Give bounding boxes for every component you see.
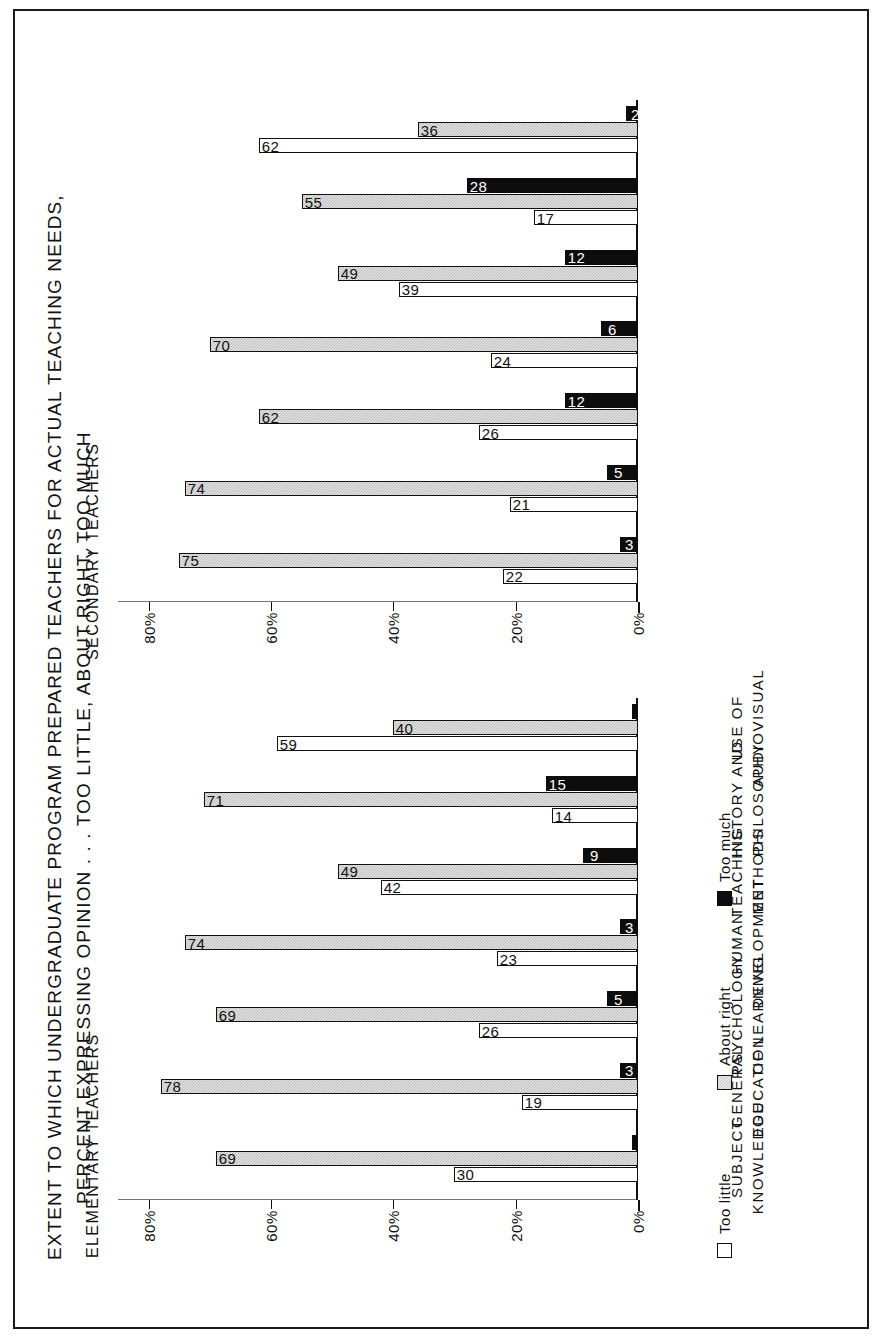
plot-area-secondary: 227532174526621224706394912175528623620%…: [118, 100, 638, 602]
bar: 5: [607, 464, 638, 479]
bar-value-label: 74: [188, 935, 206, 950]
figure: EXTENT TO WHICH UNDERGRADUATE PROGRAM PR…: [26, 20, 856, 1320]
y-axis-tick: [271, 602, 272, 611]
y-axis-tick-label: 80%: [140, 1210, 157, 1254]
bar: 40: [393, 720, 638, 735]
bar-group: 21745: [118, 464, 638, 511]
bar: 42: [381, 879, 638, 894]
bar-value-label: 26: [482, 425, 500, 440]
bar-value-label: 49: [341, 863, 359, 878]
bar-value-label: 12: [567, 393, 585, 408]
legend-label: Too little: [716, 1172, 733, 1233]
bar-group: 266212: [118, 393, 638, 440]
bar: 3: [620, 1062, 638, 1077]
y-axis-tick: [393, 602, 394, 611]
bar: 62: [259, 138, 638, 153]
bar-value-label: 74: [188, 480, 206, 495]
bar: 39: [399, 281, 638, 296]
bar-group: 59401: [118, 704, 638, 751]
bar: 49: [338, 863, 638, 878]
bar: 19: [522, 1094, 638, 1109]
y-axis-tick: [271, 1200, 272, 1209]
bar-group: 394912: [118, 249, 638, 296]
bar: 5: [607, 991, 638, 1006]
rotated-figure-wrapper: EXTENT TO WHICH UNDERGRADUATE PROGRAM PR…: [26, 20, 856, 1320]
legend-item-about-right[interactable]: About right: [716, 986, 733, 1089]
bar-value-label: 69: [219, 1007, 237, 1022]
y-axis-tick-label: 40%: [385, 612, 402, 656]
bar-value-label: 28: [469, 178, 487, 193]
bar: 22: [503, 568, 638, 583]
bar-group: 24706: [118, 321, 638, 368]
bar: 55: [302, 194, 638, 209]
chart-legend: Too littleAbout rightToo much: [716, 718, 836, 1258]
bar: 1: [632, 1134, 638, 1149]
bar-value-label: 26: [482, 1023, 500, 1038]
bar-value-label: 3: [625, 919, 634, 934]
bar-value-label: 78: [163, 1078, 181, 1093]
y-axis-tick-label: 60%: [262, 612, 279, 656]
bar-value-label: 75: [182, 552, 200, 567]
bar: 28: [467, 178, 638, 193]
bar-value-label: 3: [625, 536, 634, 551]
y-axis-line-elementary: [118, 1199, 638, 1200]
y-axis-tick: [516, 602, 517, 611]
bar: 74: [185, 935, 638, 950]
bar: 49: [338, 265, 638, 280]
bar: 59: [277, 736, 638, 751]
bar-value-label: 22: [506, 568, 524, 583]
bar-value-label: 23: [500, 951, 518, 966]
bar: 6: [601, 321, 638, 336]
bar-group: 147115: [118, 776, 638, 823]
bar-value-label: 71: [206, 792, 224, 807]
bar: 78: [161, 1078, 638, 1093]
bar: 15: [546, 776, 638, 791]
bar: 3: [620, 536, 638, 551]
y-axis-tick-label: 20%: [507, 612, 524, 656]
bar-value-label: 30: [457, 1166, 475, 1181]
bar-group: 62362: [118, 106, 638, 153]
bar-value-label: 40: [396, 720, 414, 735]
bar-value-label: 19: [524, 1094, 542, 1109]
bar: 21: [510, 496, 638, 511]
plot-area-elementary: 3069119783266952374342499147115594010%20…: [118, 698, 638, 1200]
legend-item-too-little[interactable]: Too little: [716, 1172, 733, 1257]
panel-label-secondary: SECONDARY TEACHERS: [84, 442, 102, 659]
bar-value-label: 2: [631, 106, 640, 121]
bar: 71: [204, 792, 638, 807]
bar-group: 30691: [118, 1134, 638, 1181]
bar-value-label: 12: [567, 249, 585, 264]
panel-label-elementary: ELEMENTARY TEACHERS: [84, 1033, 102, 1258]
bar: 12: [565, 249, 638, 264]
y-axis-tick-label: 80%: [140, 612, 157, 656]
panel-elementary: ELEMENTARY TEACHERS 30691197832669523743…: [118, 698, 678, 1258]
y-axis-tick-label: 40%: [385, 1210, 402, 1254]
bar-value-label: 59: [280, 736, 298, 751]
legend-swatch-icon: [717, 891, 732, 906]
bar-value-label: 70: [212, 337, 230, 352]
y-axis-tick: [638, 602, 640, 613]
bar: 74: [185, 480, 638, 495]
bar-value-label: 3: [625, 1062, 634, 1077]
bar-value-label: 5: [615, 991, 624, 1006]
bar: 24: [491, 353, 638, 368]
legend-swatch-icon: [717, 1243, 732, 1258]
bar-value-label: 21: [512, 496, 530, 511]
bar-value-label: 62: [261, 409, 279, 424]
panel-secondary: SECONDARY TEACHERS 227532174526621224706…: [118, 100, 678, 660]
legend-label: Too much: [716, 812, 733, 882]
chart-page: EXTENT TO WHICH UNDERGRADUATE PROGRAM PR…: [0, 0, 882, 1339]
bar-value-label: 5: [615, 464, 624, 479]
bar: 3: [620, 919, 638, 934]
chart-title-line-1: EXTENT TO WHICH UNDERGRADUATE PROGRAM PR…: [44, 194, 65, 1260]
legend-item-too-much[interactable]: Too much: [716, 812, 733, 906]
bar: 26: [479, 425, 638, 440]
bar-value-label: 62: [261, 138, 279, 153]
bar: 23: [497, 951, 638, 966]
bar-value-label: 17: [537, 210, 555, 225]
bar-value-label: 49: [341, 265, 359, 280]
y-axis-line-secondary: [118, 601, 638, 602]
bar: 69: [216, 1007, 638, 1022]
bar-value-label: 1: [637, 704, 646, 719]
bar-group: 42499: [118, 847, 638, 894]
